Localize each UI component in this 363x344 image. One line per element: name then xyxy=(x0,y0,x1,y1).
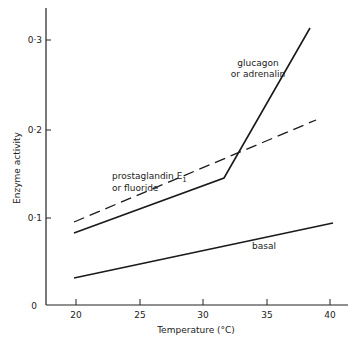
annotation-prostaglandin-subscript: 1 xyxy=(182,176,186,184)
x-ticks xyxy=(76,299,330,305)
x-tick-label: 40 xyxy=(324,310,336,320)
y-ticks xyxy=(46,40,51,218)
series-basal-line xyxy=(74,223,333,278)
chart: 0 0·1 0·2 0·3 20 25 30 35 40 Temperature… xyxy=(0,0,363,344)
y-tick-label: 0 xyxy=(31,301,37,311)
annotation-glucagon: glucagon xyxy=(237,58,278,68)
y-axis-title: Enzyme activity xyxy=(12,131,22,203)
annotation-basal: basal xyxy=(252,241,276,251)
x-tick-label: 30 xyxy=(197,310,209,320)
y-tick-label: 0·2 xyxy=(28,125,42,135)
x-tick-label: 20 xyxy=(70,310,82,320)
x-tick-label: 25 xyxy=(134,310,145,320)
series-prostaglandin-dashed-line xyxy=(74,120,316,222)
annotation-prostaglandin-text: prostaglandin E xyxy=(112,171,183,181)
x-axis-title: Temperature (°C) xyxy=(156,325,235,335)
annotation-fluoride: or fluoride xyxy=(112,183,159,193)
x-tick-label: 35 xyxy=(261,310,272,320)
annotation-glucagon: or adrenalin xyxy=(231,69,285,79)
y-tick-label: 0·1 xyxy=(28,213,42,223)
y-tick-label: 0·3 xyxy=(28,35,42,45)
